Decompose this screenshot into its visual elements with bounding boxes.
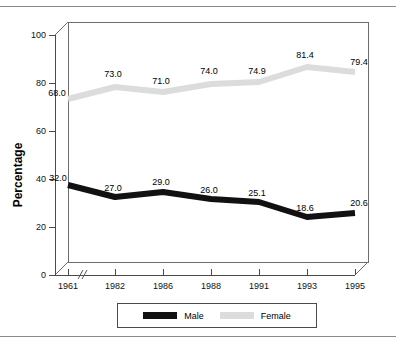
- x-tick-label-1991: 1991: [249, 281, 269, 291]
- legend-entry-male: Male: [143, 311, 204, 321]
- back-plane: [68, 22, 368, 262]
- x-tick-label-1993: 1993: [297, 281, 317, 291]
- legend-label-male: Male: [184, 311, 204, 321]
- y-tick-label-100: 100: [31, 30, 46, 40]
- y-axis-ticks: [49, 35, 55, 275]
- data-label-female-1988: 74.0: [200, 66, 218, 76]
- data-label-female-1995: 79.4: [350, 57, 368, 67]
- legend-entry-female: Female: [220, 311, 291, 321]
- chart-figure: 100 80 60 40 20 0 Percentage 1961 1982 1…: [0, 0, 396, 344]
- legend-label-female: Female: [261, 311, 291, 321]
- x-tick-label-1995: 1995: [345, 281, 365, 291]
- data-label-female-1961: 68.0: [48, 88, 66, 98]
- y-tick-label-0: 0: [41, 270, 46, 280]
- legend-swatch-male-icon: [143, 312, 177, 319]
- y-tick-label-60: 60: [36, 126, 46, 136]
- x-axis-ticks: [68, 269, 355, 275]
- data-label-male-1982: 27.0: [104, 183, 122, 193]
- data-label-female-1991: 74.9: [248, 66, 266, 76]
- data-label-male-1961: 32.0: [49, 173, 67, 183]
- data-label-female-1982: 73.0: [104, 69, 122, 79]
- y-axis-title: Percentage: [11, 142, 25, 207]
- y-tick-label-20: 20: [36, 222, 46, 232]
- chart-legend: Male Female: [117, 303, 317, 328]
- x-tick-label-1961: 1961: [58, 281, 78, 291]
- corner-connector-bottom-right: [355, 262, 368, 275]
- corner-connector-top: [55, 22, 68, 35]
- data-label-male-1993: 18.6: [296, 203, 314, 213]
- legend-swatch-female-icon: [220, 312, 254, 319]
- data-label-male-1986: 29.0: [152, 177, 170, 187]
- line-chart-plot: 100 80 60 40 20 0 Percentage 1961 1982 1…: [0, 0, 396, 344]
- x-tick-label-1988: 1988: [201, 281, 221, 291]
- data-label-female-1993: 81.4: [296, 50, 314, 60]
- data-label-female-1986: 71.0: [152, 76, 170, 86]
- x-tick-label-1982: 1982: [105, 281, 125, 291]
- data-label-male-1991: 25.1: [248, 188, 266, 198]
- data-label-male-1988: 26.0: [200, 185, 218, 195]
- data-label-male-1995: 20.6: [350, 198, 368, 208]
- y-tick-label-80: 80: [36, 78, 46, 88]
- x-tick-label-1986: 1986: [153, 281, 173, 291]
- corner-connector-bottom: [55, 262, 68, 275]
- y-tick-label-40: 40: [36, 174, 46, 184]
